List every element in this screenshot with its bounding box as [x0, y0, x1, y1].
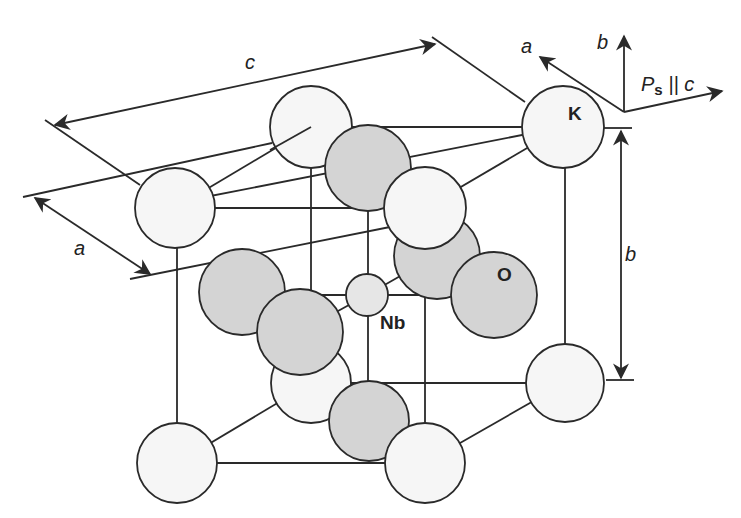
a-dimension-arrow [35, 198, 150, 274]
c-extension-right [432, 37, 525, 102]
dimension-label-b: b [625, 244, 636, 264]
k-atom-bottom-right [526, 344, 604, 422]
k-atom-front-bottom-right [385, 423, 465, 503]
k-atom-front-top-left [135, 168, 215, 248]
k-atom-front-top-right [384, 167, 466, 249]
o-atom-right-face [451, 252, 537, 338]
k-atom-top-right [522, 86, 604, 168]
k-atom-front-bottom-left [137, 423, 217, 503]
nb-atom-center [346, 274, 388, 316]
dimension-label-a: a [74, 238, 85, 258]
crystal-structure-diagram: c a b K O Nb a b Ps || c [0, 0, 741, 518]
o-atom-front-face [257, 289, 343, 375]
axis-label-ps-parallel-c: Ps || c [641, 74, 694, 97]
atom-label-o: O [497, 265, 512, 284]
dimension-label-c: c [245, 52, 255, 72]
axis-label-b: b [597, 32, 608, 52]
atom-label-k: K [568, 104, 582, 123]
axis-label-a: a [521, 36, 532, 56]
atom-label-nb: Nb [380, 313, 405, 332]
